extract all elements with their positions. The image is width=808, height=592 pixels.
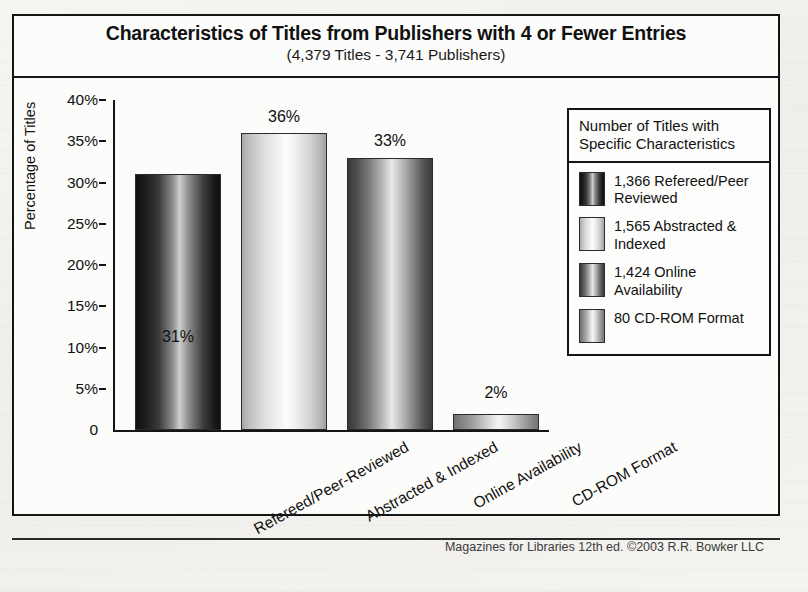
bar-online-availability[interactable]	[347, 158, 433, 430]
legend-item[interactable]: 1,565 Abstracted & Indexed	[579, 216, 761, 253]
y-tick-mark	[99, 388, 106, 390]
y-tick-label: 10%	[67, 339, 98, 357]
y-tick-label: 20%	[67, 256, 98, 274]
x-tick-label-abstracted-indexed: Abstracted & Indexed	[363, 438, 501, 526]
y-axis-title: Percentage of Titles	[22, 102, 38, 230]
legend-item[interactable]: 80 CD-ROM Format	[579, 308, 761, 343]
chart-title-block: Characteristics of Titles from Publisher…	[14, 16, 778, 78]
legend-swatch-icon	[579, 263, 605, 297]
y-tick-label: 40%	[67, 91, 98, 109]
y-tick-mark	[99, 223, 106, 225]
bar-abstracted-indexed[interactable]	[241, 133, 327, 430]
bar-value-label: 31%	[162, 328, 194, 346]
y-tick-label: 35%	[67, 132, 98, 150]
y-tick-mark	[99, 140, 106, 142]
legend-item[interactable]: 1,366 Refereed/Peer Reviewed	[579, 171, 761, 208]
legend-item-label: 80 CD-ROM Format	[614, 308, 744, 327]
chart-figure: Characteristics of Titles from Publisher…	[12, 14, 780, 516]
legend-title: Number of Titles with Specific Character…	[569, 110, 769, 163]
y-tick-label: 0	[89, 421, 98, 439]
legend-item-label: 1,424 Online Availability	[614, 262, 761, 299]
legend-item-list: 1,366 Refereed/Peer Reviewed 1,565 Abstr…	[569, 163, 769, 354]
x-tick-label-cd-rom-format: CD-ROM Format	[569, 438, 680, 511]
y-tick-mark	[99, 305, 106, 307]
bar-refereed-peer-reviewed[interactable]	[135, 174, 221, 430]
y-tick-label: 25%	[67, 215, 98, 233]
legend-swatch-icon	[579, 309, 605, 343]
source-attribution: Magazines for Libraries 12th ed. ©2003 R…	[445, 540, 764, 554]
y-tick-label: 5%	[76, 380, 98, 398]
bar-value-label: 36%	[268, 108, 300, 126]
bar-value-label: 2%	[484, 384, 507, 402]
legend-swatch-icon	[579, 172, 605, 206]
y-axis-ticks: 40% 35% 30% 25% 20% 15% 10% 5% 0	[40, 100, 106, 430]
y-tick-label: 30%	[67, 174, 98, 192]
y-tick-mark	[99, 264, 106, 266]
legend-item-label: 1,565 Abstracted & Indexed	[614, 216, 761, 253]
page-title: Characteristics of Titles from Publisher…	[14, 22, 778, 44]
y-tick-mark	[99, 347, 106, 349]
bar-series: 31% 36% 33% 2%	[113, 100, 547, 430]
bar-value-label: 33%	[374, 132, 406, 150]
x-tick-label-online-availability: Online Availability	[470, 438, 585, 513]
legend-swatch-icon	[579, 217, 605, 251]
x-tick-label-refereed-peer-reviewed: Refereed/Peer-Reviewed	[251, 438, 412, 538]
chart-legend: Number of Titles with Specific Character…	[567, 108, 771, 356]
y-tick-mark	[99, 99, 106, 101]
page-divider-rule	[12, 538, 780, 540]
chart-subtitle: (4,379 Titles - 3,741 Publishers)	[14, 46, 778, 63]
legend-item-label: 1,366 Refereed/Peer Reviewed	[614, 171, 761, 208]
y-tick-label: 15%	[67, 297, 98, 315]
bar-cd-rom-format[interactable]	[453, 414, 539, 431]
y-tick-mark	[99, 182, 106, 184]
legend-item[interactable]: 1,424 Online Availability	[579, 262, 761, 299]
